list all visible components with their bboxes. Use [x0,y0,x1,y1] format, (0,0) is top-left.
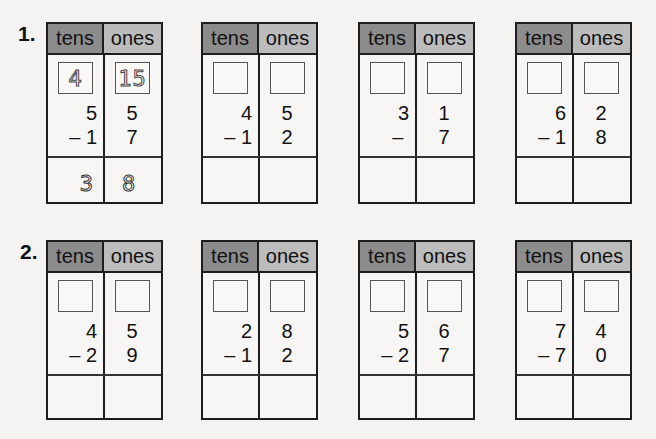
minuend-ones: 2 [584,102,618,124]
subtrahend-ones: 2 [270,344,304,366]
column-divider [258,271,260,418]
column-divider [415,271,417,418]
minuend-ones: 8 [270,320,304,342]
regroup-tens-box[interactable] [527,280,562,312]
column-divider [103,53,105,202]
minus-sign: – [538,126,549,148]
place-value-chart: tens ones 7 4 – 7 0 [515,240,632,420]
tens-column-header: tens [360,24,416,53]
regroup-tens-value: 4 [68,66,82,91]
regroup-tens-box[interactable] [370,62,405,94]
problem-number-label: 1. [18,22,36,46]
ones-column-header: ones [104,24,161,53]
chart-header: tens ones [517,24,630,55]
subtrahend-tens-digit: 2 [398,344,409,366]
chart-header: tens ones [48,24,161,55]
minus-sign: – [69,344,80,366]
minuend-ones: 5 [115,102,149,124]
subtrahend-ones: 7 [427,344,461,366]
subtrahend-ones: 9 [115,344,149,366]
regroup-tens-box[interactable] [213,280,248,312]
ones-column-header: ones [416,242,473,271]
place-value-chart: tens ones 4 5 – 1 2 [201,22,318,204]
chart-header: tens ones [48,242,161,273]
place-value-chart: tens ones 6 2 – 1 8 [515,22,632,204]
regroup-tens-box[interactable] [370,280,405,312]
regroup-ones-box[interactable] [115,280,150,312]
minuend-ones: 1 [427,102,461,124]
ones-column-header: ones [259,242,316,271]
answer-line [203,374,316,376]
column-divider [258,53,260,202]
subtrahend-tens-digit: 1 [241,126,252,148]
answer-tens-cell[interactable]: 3 [80,171,93,196]
subtrahend-ones: 2 [270,126,304,148]
regroup-tens-box[interactable] [58,280,93,312]
regroup-ones-box[interactable]: 15 [115,62,150,94]
column-divider [572,271,574,418]
minuend-ones: 5 [115,320,149,342]
regroup-tens-box[interactable]: 4 [58,62,93,94]
subtrahend-tens-digit: 7 [555,344,566,366]
subtrahend-tens-digit: 1 [555,126,566,148]
minuend-ones: 4 [584,320,618,342]
chart-header: tens ones [360,24,473,55]
minus-sign: – [224,344,235,366]
subtrahend-ones: 7 [427,126,461,148]
answer-line [360,374,473,376]
subtrahend-ones: 7 [115,126,149,148]
chart-header: tens ones [360,242,473,273]
subtrahend-tens-digit: 1 [86,126,97,148]
subtrahend-tens: – 2 [47,344,97,366]
tens-column-header: tens [517,24,573,53]
ones-column-header: ones [104,242,161,271]
minus-sign: – [69,126,80,148]
chart-header: tens ones [203,242,316,273]
minus-sign: – [538,344,549,366]
place-value-chart: tens ones 2 8 – 1 2 [201,240,318,420]
subtrahend-ones: 0 [584,344,618,366]
ones-column-header: ones [573,24,630,53]
minuend-tens: 5 [359,320,409,342]
minuend-ones: 6 [427,320,461,342]
minus-sign: – [224,126,235,148]
tens-column-header: tens [48,24,104,53]
place-value-chart: tens ones 4 15 5 5 – 1 7 3 8 [46,22,163,204]
subtrahend-tens: – 1 [202,126,252,148]
answer-ones-cell[interactable]: 8 [122,171,135,196]
tens-column-header: tens [203,24,259,53]
regroup-tens-box[interactable] [527,62,562,94]
place-value-chart: tens ones 3 1 – 7 [358,22,475,204]
regroup-ones-box[interactable] [427,62,462,94]
place-value-chart: tens ones 4 5 – 2 9 [46,240,163,420]
minuend-tens: 4 [47,320,97,342]
ones-column-header: ones [573,242,630,271]
minuend-tens: 7 [516,320,566,342]
regroup-ones-box[interactable] [427,280,462,312]
answer-line [203,156,316,158]
tens-column-header: tens [203,242,259,271]
subtrahend-tens-digit: 2 [86,344,97,366]
regroup-ones-box[interactable] [584,62,619,94]
regroup-ones-box[interactable] [270,280,305,312]
column-divider [103,271,105,418]
subtrahend-tens: – 7 [516,344,566,366]
chart-header: tens ones [203,24,316,55]
minus-sign: – [392,126,403,148]
column-divider [415,53,417,202]
regroup-ones-box[interactable] [584,280,619,312]
answer-line [360,156,473,158]
answer-line [48,156,161,158]
regroup-ones-box[interactable] [270,62,305,94]
tens-column-header: tens [360,242,416,271]
column-divider [572,53,574,202]
minuend-tens: 3 [359,102,409,124]
minuend-tens: 6 [516,102,566,124]
place-value-chart: tens ones 5 6 – 2 7 [358,240,475,420]
regroup-tens-box[interactable] [213,62,248,94]
answer-line [48,374,161,376]
subtrahend-tens: – [359,126,409,148]
subtrahend-ones: 8 [584,126,618,148]
ones-column-header: ones [259,24,316,53]
answer-line [517,156,630,158]
